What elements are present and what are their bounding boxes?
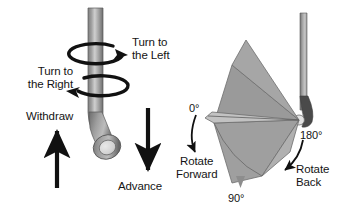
left-instrument [88,8,124,163]
rotate-forward-arrow [192,115,196,152]
label-rotate-back-line2: Back [296,176,321,189]
label-rotate-forward-line2: Forward [176,168,217,181]
label-withdraw: Withdraw [26,110,73,123]
rotation-sweep-sector [205,40,299,183]
label-turn-to-the-left-line1: Turn to [132,36,167,49]
instrument-motion-diagram: Turn to the Left Turn to the Right Withd… [0,0,344,218]
label-rotate-back-line1: Rotate [296,163,329,176]
right-instrument [294,13,313,127]
label-90-degrees: 90° [228,192,244,205]
label-turn-to-the-right-line1: Turn to [0,65,73,78]
label-advance: Advance [118,180,162,193]
label-turn-to-the-right-line2: the Right [0,78,73,91]
label-0-degrees: 0° [189,102,199,115]
diagram-canvas [0,0,344,218]
label-turn-to-the-left-line2: the Left [132,49,170,62]
instrument-shaft-thin [300,13,309,110]
label-180-degrees: 180° [300,129,322,142]
label-rotate-forward-line1: Rotate [180,155,213,168]
rotate-forward-arrow-path [192,115,196,152]
